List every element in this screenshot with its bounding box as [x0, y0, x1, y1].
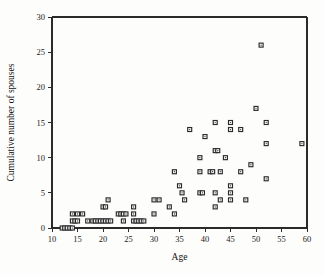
data-point-center-dot	[245, 199, 246, 200]
data-point-center-dot	[266, 143, 267, 144]
data-point-center-dot	[301, 143, 302, 144]
x-tick-label: 50	[252, 234, 261, 244]
data-point	[198, 170, 202, 174]
data-point	[254, 106, 258, 110]
x-tick-label: 40	[201, 234, 210, 244]
data-point	[249, 163, 253, 167]
data-point	[76, 212, 80, 216]
y-tick-label: 15	[37, 118, 46, 128]
data-point	[223, 156, 227, 160]
data-point	[229, 184, 233, 188]
data-point	[229, 128, 233, 132]
scatter-plot-figure: 1015202530354045505560 051015202530 AgeC…	[0, 0, 325, 275]
data-point-center-dot	[230, 122, 231, 123]
data-point-center-dot	[217, 150, 218, 151]
data-point	[70, 212, 74, 216]
x-tick-label: 15	[73, 234, 82, 244]
data-point-center-dot	[230, 129, 231, 130]
data-point	[229, 191, 233, 195]
data-point	[213, 191, 217, 195]
data-point	[229, 198, 233, 202]
data-point-center-dot	[72, 213, 73, 214]
data-point-center-dot	[225, 157, 226, 158]
y-tick-label: 10	[37, 153, 46, 163]
data-point	[244, 198, 248, 202]
data-point-center-dot	[143, 220, 144, 221]
x-tick-label: 45	[226, 234, 235, 244]
y-tick-label: 25	[37, 47, 46, 57]
data-point-center-dot	[105, 206, 106, 207]
data-point-center-dot	[215, 122, 216, 123]
data-point-center-dot	[230, 192, 231, 193]
data-point	[109, 219, 113, 223]
data-point-center-dot	[266, 122, 267, 123]
data-point-center-dot	[82, 213, 83, 214]
data-point-center-dot	[212, 171, 213, 172]
data-point	[264, 121, 268, 125]
data-point	[259, 43, 263, 47]
data-point-center-dot	[110, 220, 111, 221]
y-tick-label: 0	[41, 223, 45, 233]
x-tick-label: 30	[150, 234, 159, 244]
data-point	[172, 212, 176, 216]
data-point	[152, 198, 156, 202]
data-point	[229, 121, 233, 125]
data-point-center-dot	[215, 192, 216, 193]
x-tick-label: 60	[303, 234, 312, 244]
data-point	[86, 219, 90, 223]
data-point	[200, 191, 204, 195]
y-tick-label: 20	[37, 82, 46, 92]
data-points	[60, 43, 304, 230]
data-point-center-dot	[174, 171, 175, 172]
data-point-center-dot	[169, 206, 170, 207]
x-tick-label: 25	[124, 234, 133, 244]
data-point-center-dot	[107, 199, 108, 200]
x-tick-label: 35	[175, 234, 184, 244]
data-point-center-dot	[123, 220, 124, 221]
x-tick-label: 20	[99, 234, 108, 244]
data-point-center-dot	[260, 45, 261, 46]
data-point	[152, 212, 156, 216]
data-point-center-dot	[133, 206, 134, 207]
y-tick-label: 30	[37, 12, 46, 22]
data-point	[213, 121, 217, 125]
x-axis-title: Age	[172, 252, 188, 262]
data-point-center-dot	[153, 213, 154, 214]
data-point	[167, 205, 171, 209]
x-tick-label: 10	[48, 234, 57, 244]
data-point-center-dot	[133, 213, 134, 214]
data-point-center-dot	[189, 129, 190, 130]
y-tick-label: 5	[41, 188, 45, 198]
y-axis-ticks: 051015202530	[37, 12, 53, 233]
data-point	[124, 212, 128, 216]
plot-canvas: 1015202530354045505560 051015202530 AgeC…	[0, 0, 325, 275]
data-point-center-dot	[181, 192, 182, 193]
data-point-center-dot	[77, 220, 78, 221]
data-point	[104, 205, 108, 209]
data-point	[142, 219, 146, 223]
data-point-center-dot	[266, 178, 267, 179]
data-point-center-dot	[77, 213, 78, 214]
data-point	[300, 142, 304, 146]
data-point-center-dot	[87, 220, 88, 221]
data-point	[213, 205, 217, 209]
data-point	[121, 219, 125, 223]
data-point	[216, 149, 220, 153]
axis-titles: AgeCumulative number of spouses	[6, 63, 187, 262]
data-point-center-dot	[72, 227, 73, 228]
data-point-center-dot	[153, 199, 154, 200]
data-point-center-dot	[204, 136, 205, 137]
data-point-center-dot	[202, 192, 203, 193]
data-point	[239, 128, 243, 132]
data-point-center-dot	[199, 157, 200, 158]
data-point-center-dot	[215, 206, 216, 207]
data-point	[211, 170, 215, 174]
y-axis-title: Cumulative number of spouses	[6, 63, 16, 181]
data-point	[172, 170, 176, 174]
data-point	[180, 191, 184, 195]
data-point	[157, 198, 161, 202]
data-point	[264, 142, 268, 146]
data-point	[218, 170, 222, 174]
data-point	[132, 205, 136, 209]
data-point	[106, 198, 110, 202]
